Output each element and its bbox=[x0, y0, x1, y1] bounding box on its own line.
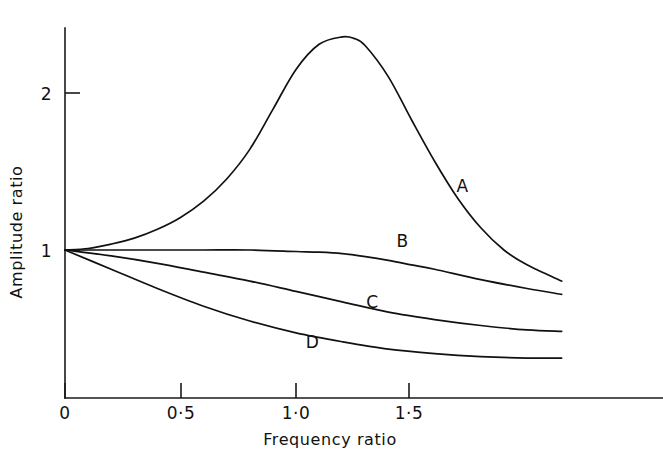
curve-b bbox=[65, 250, 562, 295]
y-tick-label-1: 1 bbox=[41, 241, 52, 261]
y-axis-title: Amplitude ratio bbox=[7, 166, 26, 299]
data-curves bbox=[65, 36, 562, 358]
x-tick-label-0: 0 bbox=[59, 403, 70, 423]
chart-figure: 2 1 0 0·5 1·0 1·5 Frequency ratio Amplit… bbox=[0, 0, 663, 456]
curve-label-b: B bbox=[396, 231, 408, 251]
y-tick-label-2: 2 bbox=[41, 84, 52, 104]
x-tick-label-0-5: 0·5 bbox=[167, 403, 196, 423]
curve-label-d: D bbox=[306, 332, 319, 352]
curve-label-a: A bbox=[456, 176, 468, 196]
curve-labels: A B C D bbox=[306, 176, 469, 351]
x-tick-labels: 0 0·5 1·0 1·5 bbox=[59, 403, 423, 423]
curve-a bbox=[65, 36, 562, 281]
amplitude-ratio-chart: 2 1 0 0·5 1·0 1·5 Frequency ratio Amplit… bbox=[0, 0, 663, 456]
chart-axes bbox=[65, 28, 663, 398]
curve-c bbox=[65, 250, 562, 331]
x-axis-ticks bbox=[65, 383, 409, 398]
x-tick-label-1-5: 1·5 bbox=[395, 403, 424, 423]
x-tick-label-1-0: 1·0 bbox=[282, 403, 311, 423]
curve-label-c: C bbox=[366, 292, 378, 312]
y-tick-labels: 2 1 bbox=[41, 84, 52, 261]
y-axis-ticks bbox=[65, 93, 80, 250]
x-axis-title: Frequency ratio bbox=[263, 430, 397, 449]
